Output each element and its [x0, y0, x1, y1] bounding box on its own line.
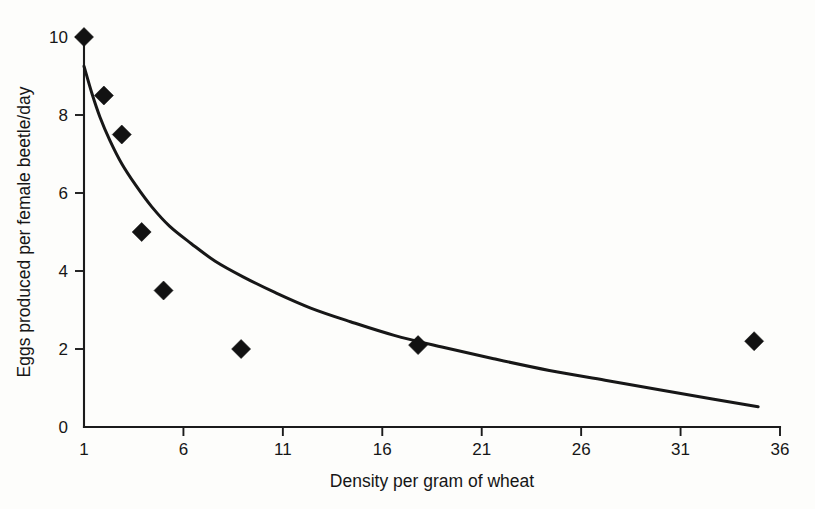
y-tick-label: 10 — [49, 28, 68, 47]
data-point-diamond — [94, 86, 113, 105]
data-point-diamond — [75, 28, 94, 47]
y-axis-ticks — [75, 37, 84, 349]
fitted-curve — [84, 66, 758, 406]
x-tick-label: 31 — [671, 440, 690, 459]
y-tick-label: 4 — [59, 262, 68, 281]
x-tick-labels: 16111621263136 — [79, 440, 789, 459]
data-point-markers — [75, 28, 764, 359]
data-point-diamond — [154, 281, 173, 300]
x-tick-label: 36 — [771, 440, 790, 459]
y-tick-label: 8 — [59, 106, 68, 125]
y-tick-label: 6 — [59, 184, 68, 203]
y-axis-title: Eggs produced per female beetle/day — [14, 86, 34, 377]
x-axis-title: Density per gram of wheat — [330, 471, 534, 491]
x-tick-label: 16 — [373, 440, 392, 459]
x-tick-label: 26 — [572, 440, 591, 459]
data-point-diamond — [112, 125, 131, 144]
y-tick-labels: 0246810 — [49, 28, 68, 437]
data-point-diamond — [745, 332, 764, 351]
chart-figure: 0246810 16111621263136 Density per gram … — [0, 0, 815, 509]
x-tick-label: 1 — [79, 440, 88, 459]
x-tick-label: 6 — [179, 440, 188, 459]
x-tick-label: 11 — [274, 440, 292, 459]
y-tick-label: 0 — [59, 418, 68, 437]
x-axis-ticks — [183, 427, 780, 436]
scatter-plot: 0246810 16111621263136 Density per gram … — [0, 0, 815, 509]
x-tick-label: 21 — [472, 440, 491, 459]
data-point-diamond — [232, 340, 251, 359]
data-point-diamond — [132, 223, 151, 242]
y-tick-label: 2 — [59, 340, 68, 359]
